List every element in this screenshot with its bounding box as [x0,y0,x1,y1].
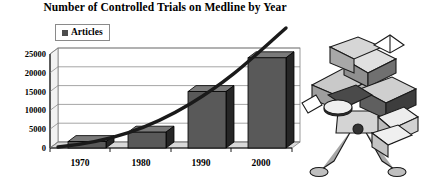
plot-area: 25000 20000 15000 10000 5000 0 [0,0,330,188]
chart-figure: Number of Controlled Trials on Medline b… [0,0,423,188]
y-tick-label-20000: 20000 [25,68,46,78]
bar-2000 [248,52,294,148]
x-tick-label-1990: 1990 [192,158,211,168]
bar-1990 [188,86,234,148]
x-tick-label-2000: 2000 [252,158,271,168]
clipart-svg [300,33,420,185]
y-tick-label-0: 0 [42,143,46,153]
x-axis-labels: 1970 1980 1990 2000 [71,158,271,168]
y-tick-label-10000: 10000 [25,105,46,115]
x-tick-label-1980: 1980 [132,158,151,168]
y-tick-label-25000: 25000 [25,49,46,59]
chart-svg: 25000 20000 15000 10000 5000 0 [0,0,330,188]
person-carrying-books-illustration [300,33,420,185]
x-axis-ticks [50,148,292,152]
y-tick-label-15000: 15000 [25,87,46,97]
y-tick-label-5000: 5000 [29,124,46,134]
x-tick-label-1970: 1970 [71,158,90,168]
